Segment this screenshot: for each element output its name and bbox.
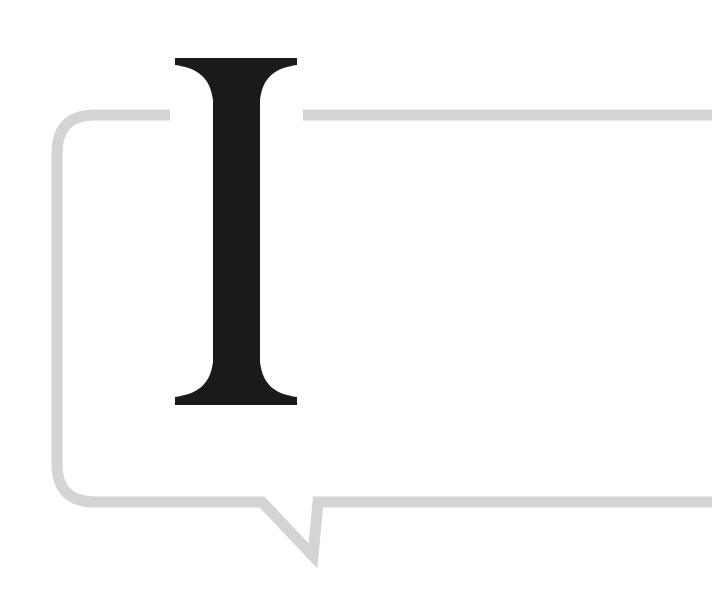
letter-i-glyph-icon: [0, 0, 712, 601]
drop-cap-illustration: I: [0, 0, 712, 601]
letter-i-shape: [175, 58, 297, 405]
